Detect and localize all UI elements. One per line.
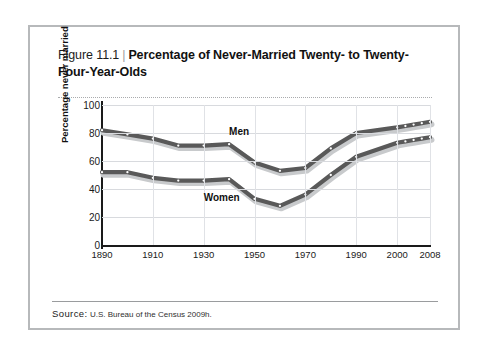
chart-axes <box>102 105 430 245</box>
figure-inner: Figure 11.1|Percentage of Never-Married … <box>30 27 458 328</box>
figure-title-separator: | <box>119 48 128 62</box>
gridline-vertical <box>204 105 205 245</box>
series-annotation-men: Men <box>229 126 249 137</box>
source-line: Source: U.S. Bureau of the Census 2009h. <box>52 308 212 319</box>
gridline-horizontal <box>102 189 430 190</box>
data-point-marker <box>228 178 230 180</box>
figure-frame: Figure 11.1|Percentage of Never-Married … <box>28 25 460 330</box>
x-axis-tick: 1990 <box>346 249 367 260</box>
data-point-marker <box>177 179 179 181</box>
gridline-horizontal <box>102 217 430 218</box>
x-axis-tick: 1890 <box>91 249 112 260</box>
x-axis-tick: 1910 <box>142 249 163 260</box>
data-point-marker <box>279 205 281 207</box>
data-point-marker <box>101 129 103 131</box>
data-point-marker <box>126 171 128 173</box>
gridline-vertical <box>430 105 431 245</box>
data-point-marker <box>177 144 179 146</box>
chart-plot-svg <box>102 105 430 245</box>
data-point-marker <box>412 139 414 141</box>
series-annotation-women: Women <box>204 192 240 203</box>
x-axis-tick: 1930 <box>193 249 214 260</box>
x-axis-tick: 1950 <box>244 249 265 260</box>
data-point-marker <box>330 147 332 149</box>
figure-title: Figure 11.1|Percentage of Never-Married … <box>58 47 433 81</box>
x-axis-tick-labels: 18901910193019501970199020002008 <box>102 249 430 265</box>
x-axis-tick: 2008 <box>419 249 440 260</box>
source-label: Source: <box>52 308 88 319</box>
gridline-horizontal <box>102 133 430 134</box>
y-axis-tick: 80 <box>74 128 100 139</box>
data-point-marker <box>330 174 332 176</box>
title-divider <box>58 97 432 98</box>
gridline-vertical <box>255 105 256 245</box>
y-axis-tick-labels: 020406080100 <box>68 105 100 245</box>
data-point-marker <box>421 137 423 139</box>
source-citation: U.S. Bureau of the Census 2009h. <box>90 310 212 319</box>
x-axis-tick: 2000 <box>387 249 408 260</box>
gridline-vertical <box>153 105 154 245</box>
data-point-marker <box>404 140 406 142</box>
x-axis-line <box>101 245 431 247</box>
gridline-horizontal <box>102 105 430 106</box>
x-axis-tick: 1970 <box>295 249 316 260</box>
data-point-marker <box>421 122 423 124</box>
y-axis-tick: 60 <box>74 156 100 167</box>
y-axis-tick: 40 <box>74 184 100 195</box>
data-point-marker <box>404 125 406 127</box>
data-point-marker <box>279 170 281 172</box>
y-axis-tick: 100 <box>74 100 100 111</box>
gridline-vertical <box>397 105 398 245</box>
gridline-vertical <box>305 105 306 245</box>
series-line-women <box>102 137 430 206</box>
y-axis-tick: 20 <box>74 212 100 223</box>
gridline-vertical <box>356 105 357 245</box>
data-point-marker <box>101 171 103 173</box>
plot-area: Percentage never married 020406080100 18… <box>30 105 462 280</box>
data-point-marker <box>228 143 230 145</box>
data-point-marker <box>412 123 414 125</box>
source-divider <box>52 301 438 302</box>
gridline-horizontal <box>102 161 430 162</box>
